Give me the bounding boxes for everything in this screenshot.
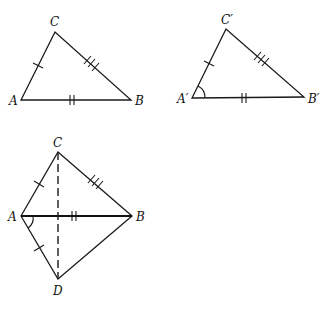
- label-c: C: [53, 136, 62, 150]
- label-d: D: [52, 284, 63, 298]
- kite-construction: A B C D: [7, 136, 145, 298]
- triangle-abc: A B C: [8, 15, 144, 108]
- triangle-abc-outline: [21, 32, 131, 100]
- label-a-prime: A′: [176, 92, 189, 106]
- label-a: A: [8, 94, 18, 108]
- angle-mark-a-prime: [198, 86, 205, 98]
- angle-mark-a: [28, 216, 33, 228]
- triangle-abc-prime: A′ B′ C′: [176, 13, 320, 106]
- label-a: A: [7, 210, 17, 224]
- tick-a-prime-c-prime: [204, 61, 214, 66]
- label-b: B: [135, 210, 145, 224]
- label-c-prime: C′: [221, 13, 233, 27]
- label-c: C: [50, 15, 59, 29]
- tick-cb-triple: [88, 175, 103, 189]
- label-b: B: [134, 94, 144, 108]
- congruence-diagram: A B C A′ B′ C′: [0, 0, 332, 315]
- label-b-prime: B′: [307, 92, 320, 106]
